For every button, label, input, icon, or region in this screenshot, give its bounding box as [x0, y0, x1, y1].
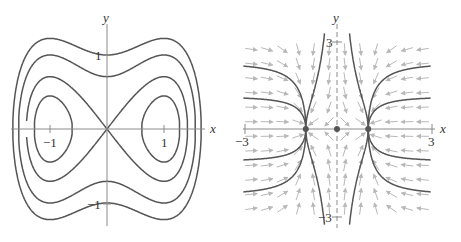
field-arrow — [327, 102, 331, 113]
right-y-tick-label-neg: −3 — [318, 210, 332, 225]
right-x-tick-label-neg: −3 — [235, 134, 249, 149]
field-arrow — [245, 165, 257, 166]
field-arrow — [292, 120, 303, 124]
field-arrow — [344, 159, 346, 171]
equilibrium-dot — [365, 126, 371, 132]
field-arrow — [370, 134, 381, 138]
field-arrow — [245, 63, 257, 64]
trajectory — [306, 33, 325, 129]
field-arrow — [313, 203, 315, 215]
field-arrow — [277, 163, 288, 167]
right-y-axis-label: y — [331, 10, 339, 25]
field-arrow — [359, 174, 361, 186]
field-arrow — [296, 44, 299, 56]
field-arrow — [343, 145, 347, 156]
field-arrow — [386, 163, 397, 167]
field-arrow — [401, 179, 413, 181]
field-arrow — [245, 92, 257, 93]
left-y-tick-label-pos: 1 — [95, 48, 102, 63]
field-arrow — [261, 92, 273, 94]
field-arrow — [387, 46, 397, 53]
field-arrow — [401, 107, 413, 108]
field-arrow — [296, 73, 301, 84]
left-y-tick-label-neg: −1 — [87, 197, 101, 212]
field-arrow — [374, 58, 378, 69]
field-arrow — [386, 150, 398, 152]
field-arrow — [417, 107, 429, 108]
trajectory — [243, 98, 305, 129]
field-arrow — [341, 118, 350, 127]
left-x-axis-label: x — [209, 121, 216, 136]
field-arrow — [360, 43, 362, 55]
field-arrow — [359, 72, 361, 84]
field-arrow — [401, 165, 413, 167]
field-arrow — [374, 203, 377, 215]
field-arrow — [309, 118, 319, 125]
field-arrow — [401, 48, 413, 51]
field-arrow — [417, 194, 429, 195]
field-arrow — [276, 121, 288, 122]
field-arrow — [312, 174, 314, 186]
field-arrow — [278, 46, 288, 53]
field-arrow — [386, 61, 396, 67]
field-arrow — [261, 165, 273, 167]
field-arrow — [261, 150, 273, 151]
field-arrow — [370, 120, 381, 124]
field-arrow — [417, 165, 429, 166]
field-arrow — [245, 151, 257, 152]
field-arrow — [261, 193, 273, 196]
field-arrow — [328, 87, 330, 99]
field-arrow — [401, 77, 413, 79]
field-arrow — [344, 188, 345, 200]
field-arrow — [358, 145, 363, 156]
field-arrow — [261, 207, 273, 210]
field-arrow — [278, 205, 288, 212]
field-arrow — [245, 107, 257, 108]
field-arrow — [386, 191, 396, 197]
field-arrow — [245, 78, 257, 79]
field-arrow — [374, 73, 379, 84]
field-arrow — [277, 106, 289, 108]
field-arrow — [358, 102, 363, 113]
field-arrow — [296, 203, 299, 215]
field-arrow — [261, 107, 273, 108]
field-arrow — [417, 78, 429, 79]
field-arrow — [296, 189, 300, 200]
field-arrow — [417, 92, 429, 93]
field-arrow — [417, 63, 429, 64]
field-arrow — [374, 174, 379, 185]
figure: x y −1 1 1 −1 x y −3 3 3 −3 — [0, 0, 461, 242]
field-arrow — [360, 188, 362, 200]
field-arrow — [360, 203, 362, 215]
field-arrow — [387, 205, 397, 212]
field-arrow — [261, 179, 273, 181]
field-arrow — [261, 62, 273, 65]
trajectory — [350, 129, 369, 225]
trajectory — [368, 129, 430, 160]
field-arrow — [261, 77, 273, 79]
trajectory — [368, 98, 430, 129]
field-arrow — [341, 132, 350, 141]
field-arrow — [344, 203, 345, 215]
field-arrow — [329, 188, 330, 200]
left-x-tick-label-neg: −1 — [43, 135, 57, 150]
right-x-axis-label: x — [439, 121, 446, 136]
field-arrow — [386, 121, 398, 122]
field-arrow — [374, 44, 377, 56]
field-arrow — [356, 133, 366, 140]
equilibrium-dot — [334, 126, 340, 132]
field-arrow — [401, 150, 413, 151]
field-arrow — [325, 132, 334, 141]
field-arrow — [401, 193, 413, 196]
field-arrow — [277, 61, 287, 67]
field-arrow — [328, 174, 330, 186]
field-arrow — [245, 48, 257, 50]
field-arrow — [417, 48, 429, 50]
field-arrow — [276, 136, 288, 137]
field-arrow — [277, 150, 289, 152]
field-arrow — [344, 174, 346, 186]
field-arrow — [417, 179, 429, 180]
field-arrow — [386, 136, 398, 137]
field-arrow — [417, 151, 429, 152]
right-y-tick-label-pos: 3 — [326, 35, 333, 50]
